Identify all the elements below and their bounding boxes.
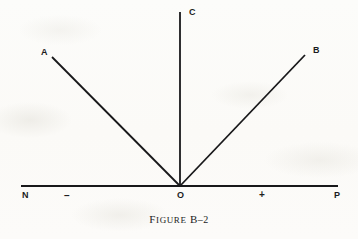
ray-line-ob bbox=[180, 55, 305, 186]
point-label-p: P bbox=[334, 191, 340, 200]
caption-figure-number: 2 bbox=[203, 214, 208, 225]
vector-diagram bbox=[0, 0, 358, 239]
point-label-a: A bbox=[41, 48, 48, 57]
figure-caption: FIGURE B–2 bbox=[0, 210, 358, 226]
minus-sign-label: – bbox=[64, 191, 70, 201]
ray-line-oa bbox=[52, 57, 180, 186]
caption-figure-letter: B bbox=[190, 213, 198, 225]
point-label-b: B bbox=[313, 46, 320, 55]
caption-word-rest: IGURE bbox=[156, 215, 187, 225]
point-label-c: C bbox=[189, 8, 196, 17]
figure-page: A B C N O P – + FIGURE B–2 bbox=[0, 0, 358, 239]
point-label-n: N bbox=[22, 191, 29, 200]
point-label-o: O bbox=[177, 191, 184, 200]
plus-sign-label: + bbox=[259, 190, 265, 200]
